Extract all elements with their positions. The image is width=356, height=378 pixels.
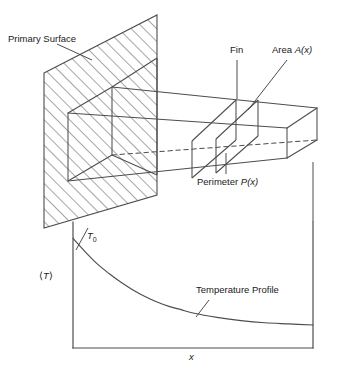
- label-x-axis-symbol: x: [189, 351, 194, 362]
- figure-canvas: [0, 0, 356, 378]
- label-area-arg: (x): [301, 44, 312, 55]
- slice-right-bottom-edge: [216, 136, 258, 173]
- fin-differential-slice: [192, 100, 258, 178]
- label-fin: Fin: [230, 45, 243, 55]
- label-x-axis: x: [189, 352, 194, 362]
- fin-tip-bottom-edge: [287, 140, 317, 158]
- label-perimeter-arg: (x): [247, 176, 258, 187]
- label-temperature-profile: Temperature Profile: [196, 285, 279, 295]
- label-area-prefix: Area: [272, 44, 295, 55]
- label-primary-surface: Primary Surface: [8, 34, 76, 44]
- fin-temperature-figure: Primary Surface Fin Area A(x) Perimeter …: [0, 0, 356, 378]
- label-base-temperature: T0: [87, 231, 97, 244]
- label-y-axis-mean-temperature: ⟨T⟩: [39, 271, 53, 281]
- label-t0-subscript: 0: [93, 236, 97, 243]
- label-perimeter-prefix: Perimeter: [197, 176, 241, 187]
- label-area: Area A(x): [272, 45, 312, 55]
- fin-tip-top-edge: [287, 108, 317, 128]
- label-avg-t-close: ⟩: [49, 270, 53, 281]
- label-perimeter: Perimeter P(x): [197, 177, 258, 187]
- temperature-profile-curve: [73, 238, 313, 325]
- slice-left-top-edge: [192, 100, 236, 141]
- slice-left-bottom-edge: [192, 140, 236, 178]
